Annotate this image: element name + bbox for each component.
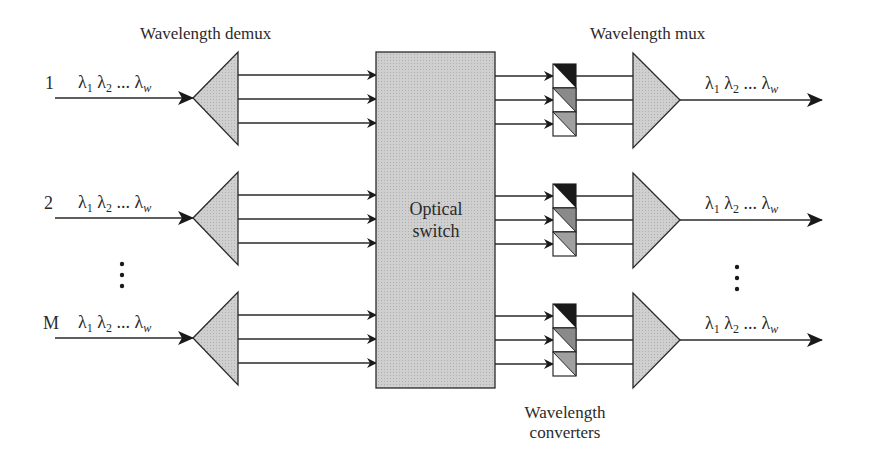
vdots-right-icon [735, 265, 739, 291]
vertical-ellipsis-icons [0, 0, 870, 472]
vdots-left-icon [120, 262, 124, 288]
